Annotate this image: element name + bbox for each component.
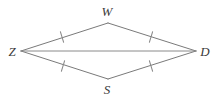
geometry-canvas: W Z D S (0, 0, 214, 99)
vertex-label-W: W (102, 4, 114, 19)
vertex-label-D: D (199, 44, 210, 59)
vertex-label-S: S (104, 82, 111, 97)
geometry-figure: W Z D S (0, 0, 214, 99)
vertex-label-Z: Z (8, 44, 16, 59)
